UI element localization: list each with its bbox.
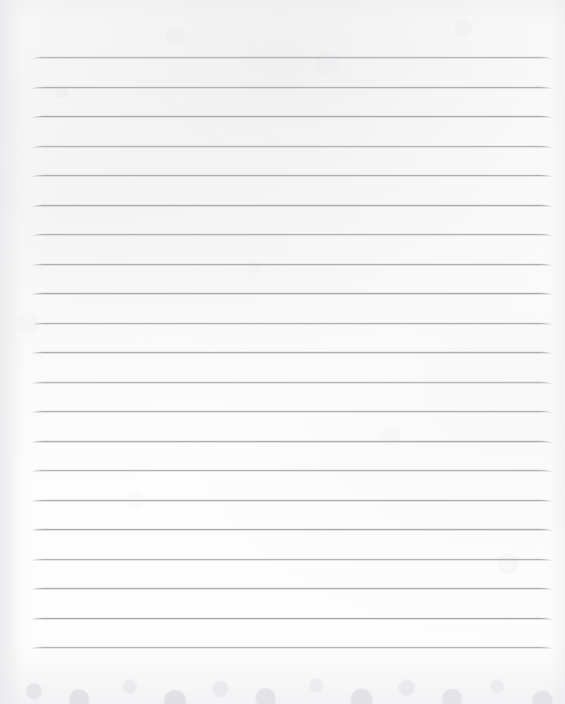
- scanned-page: [0, 0, 565, 704]
- page-handwriting-area[interactable]: [33, 57, 551, 647]
- rule-line: [33, 647, 551, 648]
